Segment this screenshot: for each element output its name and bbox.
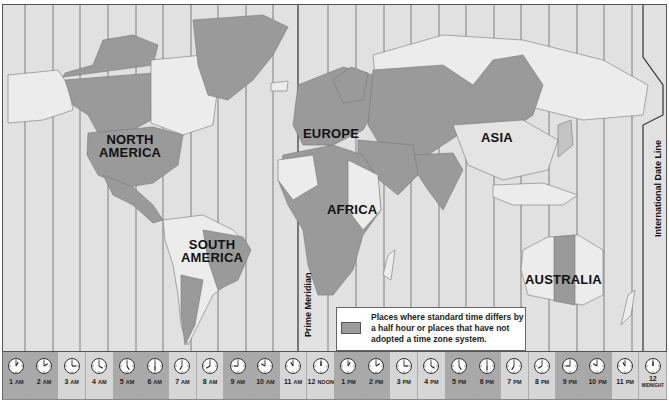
hour-column: 11PM xyxy=(612,352,640,399)
clock-icon xyxy=(257,358,273,374)
continent-label-africa: AFRICA xyxy=(327,203,377,216)
hour-suffix: AM xyxy=(236,379,245,385)
legend-text: Places where standard time differs by a … xyxy=(371,312,526,345)
hour-label: 12MIDNIGHT xyxy=(642,375,664,388)
hour-label: 7PM xyxy=(507,378,521,386)
hour-number: 2 xyxy=(369,378,373,385)
hour-suffix: NOON xyxy=(317,379,334,385)
hour-label: 6AM xyxy=(147,378,161,386)
clock-icon xyxy=(396,358,412,374)
hour-suffix: AM xyxy=(153,379,162,385)
hour-suffix: AM xyxy=(43,379,52,385)
hour-label: 11PM xyxy=(616,378,634,386)
hour-column: 12MIDNIGHT xyxy=(639,352,667,399)
hour-number: 7 xyxy=(175,378,179,385)
clock-icon xyxy=(479,358,495,374)
hour-suffix: PM xyxy=(430,379,438,385)
hour-suffix: AM xyxy=(209,379,218,385)
hour-column: 4PM xyxy=(418,352,446,399)
hour-number: 11 xyxy=(284,378,291,385)
hour-suffix: AM xyxy=(15,379,24,385)
hour-label: 3AM xyxy=(64,378,78,386)
hour-number: 12 xyxy=(308,378,316,385)
hour-label: 1AM xyxy=(9,378,23,386)
clock-icon xyxy=(91,358,107,374)
hour-column: 8PM xyxy=(529,352,557,399)
hour-number: 9 xyxy=(563,378,567,385)
hour-column: 12NOON xyxy=(307,352,335,399)
hour-number: 5 xyxy=(120,378,124,385)
clock-icon xyxy=(64,358,80,374)
clock-strip: 1AM2AM3AM4AM5AM6AM7AM8AM9AM10AM11AM12NOO… xyxy=(2,352,667,400)
hour-number: 1 xyxy=(341,378,345,385)
hour-number: 1 xyxy=(9,378,13,385)
hour-number: 8 xyxy=(535,378,539,385)
continent-label-europe: EUROPE xyxy=(303,127,359,140)
hour-label: 9PM xyxy=(563,378,577,386)
hour-suffix: PM xyxy=(458,379,466,385)
label-line: AUSTRALIA xyxy=(525,272,602,287)
hour-column: 10AM xyxy=(252,352,280,399)
hour-suffix: PM xyxy=(541,379,549,385)
hour-suffix: AM xyxy=(126,379,135,385)
hour-label: 1PM xyxy=(341,378,355,386)
hour-number: 10 xyxy=(256,378,264,385)
hour-number: 11 xyxy=(616,378,623,385)
hour-label: 10AM xyxy=(256,378,274,386)
clock-icon xyxy=(617,358,633,374)
clock-icon xyxy=(119,358,135,374)
hour-column: 9PM xyxy=(556,352,584,399)
map-graphic xyxy=(3,5,667,352)
hour-suffix: PM xyxy=(403,379,411,385)
hour-column: 2PM xyxy=(363,352,391,399)
hour-column: 6AM xyxy=(141,352,169,399)
hour-column: 7PM xyxy=(501,352,529,399)
hour-column: 8AM xyxy=(197,352,225,399)
clock-icon xyxy=(451,358,467,374)
hour-suffix: PM xyxy=(569,379,577,385)
hour-number: 10 xyxy=(588,378,596,385)
hour-suffix: PM xyxy=(486,379,494,385)
clock-icon xyxy=(147,358,163,374)
international-date-line-label: International Date Line xyxy=(653,140,663,237)
label-line: AMERICA xyxy=(181,250,243,265)
hour-number: 2 xyxy=(37,378,41,385)
hour-number: 3 xyxy=(397,378,401,385)
hour-label: 9AM xyxy=(230,378,244,386)
hour-number: 9 xyxy=(230,378,234,385)
hour-number: 4 xyxy=(92,378,96,385)
hour-column: 7AM xyxy=(169,352,197,399)
hour-label: 7AM xyxy=(175,378,189,386)
hour-suffix: AM xyxy=(266,379,275,385)
hour-column: 3AM xyxy=(58,352,86,399)
legend-swatch xyxy=(341,322,361,334)
clock-icon xyxy=(8,358,24,374)
hour-label: 4PM xyxy=(424,378,438,386)
clock-icon xyxy=(285,358,301,374)
hour-column: 5AM xyxy=(114,352,142,399)
hour-suffix: MIDNIGHT xyxy=(642,383,664,388)
legend: Places where standard time differs by a … xyxy=(336,307,526,351)
hour-column: 5PM xyxy=(446,352,474,399)
clock-icon xyxy=(562,358,578,374)
hour-label: 5AM xyxy=(120,378,134,386)
clock-icon xyxy=(506,358,522,374)
hour-label: 11AM xyxy=(284,378,302,386)
hour-suffix: PM xyxy=(626,379,634,385)
hour-label: 2PM xyxy=(369,378,383,386)
hour-label: 12NOON xyxy=(308,378,334,386)
hour-number: 4 xyxy=(424,378,428,385)
clock-icon xyxy=(174,358,190,374)
hour-column: 4AM xyxy=(86,352,114,399)
continent-label-south-america: SOUTH AMERICA xyxy=(181,238,243,264)
hour-column: 9AM xyxy=(224,352,252,399)
hour-suffix: PM xyxy=(375,379,383,385)
clock-icon xyxy=(645,358,661,374)
hour-label: 10PM xyxy=(588,378,606,386)
hour-label: 2AM xyxy=(37,378,51,386)
prime-meridian-label: Prime Meridian xyxy=(303,272,313,337)
clock-icon xyxy=(589,358,605,374)
clock-icon xyxy=(202,358,218,374)
hour-number: 3 xyxy=(64,378,68,385)
hour-column: 3PM xyxy=(390,352,418,399)
